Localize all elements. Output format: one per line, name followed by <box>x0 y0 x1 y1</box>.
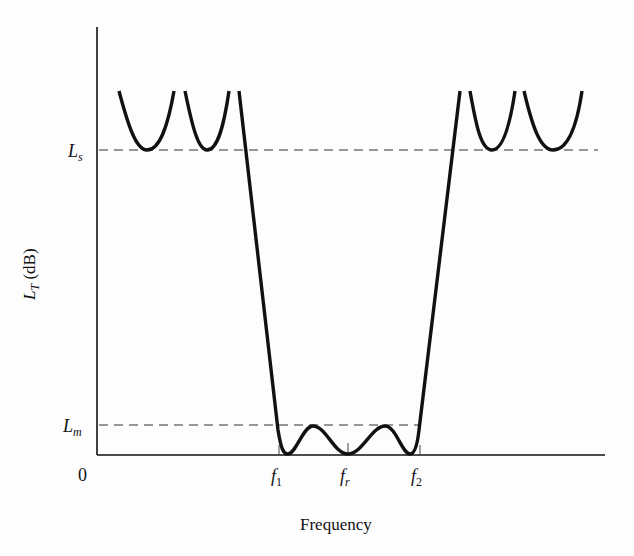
f2-label: f2 <box>411 466 422 490</box>
passband-response-curve <box>239 91 460 454</box>
right-stopband-lobe <box>524 91 582 150</box>
f1-label: f1 <box>271 466 282 490</box>
ls-label: Ls <box>68 141 83 165</box>
lm-label: Lm <box>63 416 82 440</box>
origin-label: 0 <box>78 465 87 486</box>
bandpass-filter-diagram: Ls Lm 0 f1 fr f2 Frequency LT (dB) <box>0 0 634 556</box>
y-axis-label: LT (dB) <box>20 248 43 300</box>
left-stopband-lobe <box>185 91 229 150</box>
left-stopband-lobe <box>119 91 174 150</box>
x-axis-label: Frequency <box>300 515 372 535</box>
right-stopband-lobe <box>470 91 515 150</box>
fr-label: fr <box>340 466 350 490</box>
diagram-canvas <box>0 0 634 556</box>
